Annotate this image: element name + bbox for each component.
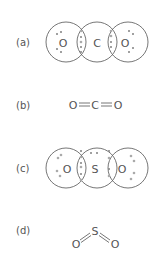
atom-o-left: O: [59, 37, 68, 50]
atom-s: S: [92, 225, 99, 238]
atom-o-left: O: [72, 238, 81, 251]
panel-label-c: (c): [16, 163, 29, 174]
molecule-diagram-figure: (a) O C O (b) O C: [0, 0, 167, 256]
panel-label-a: (a): [16, 37, 30, 48]
atom-s: S: [92, 163, 99, 176]
atom-o-right: O: [111, 238, 120, 251]
panel-label-b: (b): [16, 100, 30, 111]
panel-label-d: (d): [16, 225, 30, 236]
atom-o-right: O: [114, 99, 123, 112]
panel-c-so2-dot-cross: (c) O S O: [16, 148, 148, 188]
panel-a-co2-dot-cross: (a) O C O: [16, 22, 148, 62]
panel-d-so2-bent-structural: (d) S O O: [16, 225, 120, 251]
atom-o-right: O: [121, 37, 130, 50]
double-bond-left: [80, 233, 90, 240]
panel-b-co2-structural: (b) O C O: [16, 99, 123, 112]
oxygen-shell-right: [108, 148, 148, 188]
atom-o-left: O: [63, 163, 72, 176]
double-bond-right: [100, 233, 110, 240]
atom-c: C: [93, 37, 101, 50]
atom-c: C: [91, 99, 99, 112]
atom-o-left: O: [69, 99, 78, 112]
atom-o-right: O: [118, 163, 127, 176]
